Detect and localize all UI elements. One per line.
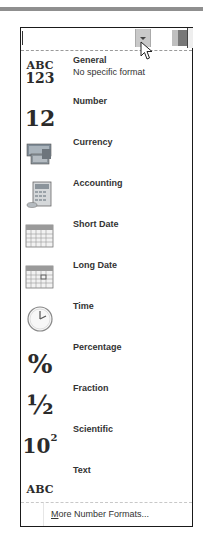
format-item-fraction[interactable]: ½ Fraction: [21, 380, 192, 421]
mouse-pointer-icon: [140, 41, 154, 61]
item-label: Fraction: [73, 383, 109, 393]
more-number-formats-label: More Number Formats...: [51, 509, 149, 519]
ribbon-fragment: [178, 30, 187, 46]
item-label: Text: [73, 465, 91, 475]
item-label: Percentage: [73, 342, 122, 352]
ribbon-fragment: [187, 28, 193, 48]
fraction-icon: ½: [23, 382, 57, 418]
text-caret: [22, 31, 23, 45]
item-label: General: [73, 55, 107, 65]
icon-text: 123: [25, 71, 54, 85]
number-format-dropdown: ABC 123 General No specific format 12 Nu…: [20, 27, 193, 527]
clock-icon: [23, 300, 57, 336]
item-label: Short Date: [73, 219, 119, 229]
ribbon-partial-button[interactable]: [172, 28, 192, 48]
format-item-long-date[interactable]: Long Date: [21, 257, 192, 298]
icon-text: 2: [50, 432, 57, 443]
format-item-time[interactable]: Time: [21, 298, 192, 339]
item-label: Number: [73, 96, 107, 106]
icon-text: 10: [23, 434, 51, 458]
accesskey: M: [51, 509, 59, 519]
number-format-input[interactable]: [24, 30, 134, 46]
item-label: Long Date: [73, 260, 117, 270]
general-format-icon: ABC 123: [23, 54, 57, 90]
number-format-icon: 12: [23, 95, 57, 131]
item-label: Time: [73, 301, 94, 311]
text-format-icon: ABC: [23, 464, 57, 500]
currency-icon: [23, 136, 57, 172]
more-number-formats-button[interactable]: More Number Formats...: [21, 503, 192, 526]
scientific-icon: 102: [23, 423, 57, 459]
icon-text: 12: [25, 107, 56, 129]
format-item-text[interactable]: ABC Text: [21, 462, 192, 503]
window-edge-strip: [0, 7, 203, 11]
percent-icon: %: [23, 341, 57, 377]
format-item-short-date[interactable]: Short Date: [21, 216, 192, 257]
icon-text: %: [28, 351, 53, 377]
item-label: Currency: [73, 137, 113, 147]
calendar-icon: [23, 259, 57, 295]
icon-text: ABC: [25, 60, 54, 71]
item-label: Scientific: [73, 424, 113, 434]
format-item-accounting[interactable]: Accounting: [21, 175, 192, 216]
item-sublabel: No specific format: [73, 67, 145, 77]
format-item-percentage[interactable]: % Percentage: [21, 339, 192, 380]
calendar-icon: [23, 218, 57, 254]
menu-gutter: [21, 503, 44, 526]
format-item-currency[interactable]: Currency: [21, 134, 192, 175]
format-item-scientific[interactable]: 102 Scientific: [21, 421, 192, 462]
item-label: Accounting: [73, 178, 123, 188]
icon-text: ½: [26, 392, 53, 418]
chevron-down-icon: [140, 37, 146, 40]
format-item-general[interactable]: ABC 123 General No specific format: [21, 52, 192, 93]
number-format-combo[interactable]: [21, 28, 192, 51]
format-item-number[interactable]: 12 Number: [21, 93, 192, 134]
accounting-icon: [23, 177, 57, 213]
icon-text: ABC: [27, 484, 54, 495]
label-rest: ore Number Formats...: [59, 509, 150, 519]
